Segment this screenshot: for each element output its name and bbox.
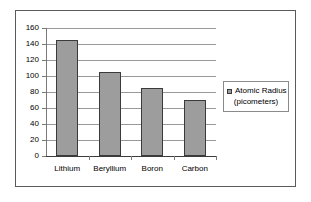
y-axis-tick-label: 60 bbox=[30, 104, 39, 112]
y-axis-tick bbox=[42, 140, 46, 141]
y-axis-tick-label: 20 bbox=[30, 136, 39, 144]
bar bbox=[99, 72, 121, 156]
y-axis-tick-label: 100 bbox=[26, 72, 39, 80]
x-axis-tick bbox=[131, 156, 132, 160]
legend-label-line2: (picometers) bbox=[227, 97, 285, 107]
y-axis-tick bbox=[42, 76, 46, 77]
x-axis-category-label: Lithium bbox=[54, 165, 80, 173]
y-axis-tick bbox=[42, 92, 46, 93]
y-axis-tick-label: 80 bbox=[30, 88, 39, 96]
x-axis-tick bbox=[89, 156, 90, 160]
y-axis-tick bbox=[42, 28, 46, 29]
plot-area: 020406080100120140160 LithiumBerylliumBo… bbox=[46, 28, 216, 156]
legend-label-line1: Atomic Radius bbox=[235, 86, 287, 96]
chart-frame: 020406080100120140160 LithiumBerylliumBo… bbox=[15, 10, 296, 187]
chart-legend: Atomic Radius (picometers) bbox=[223, 81, 289, 112]
x-axis-tick bbox=[174, 156, 175, 160]
x-axis-category-label: Beryllium bbox=[93, 165, 126, 173]
legend-swatch-icon bbox=[227, 89, 232, 94]
gridline bbox=[47, 28, 216, 29]
legend-entry: Atomic Radius bbox=[227, 86, 285, 96]
y-axis-tick bbox=[42, 124, 46, 125]
x-axis-category-label: Boron bbox=[142, 165, 163, 173]
y-axis-tick-label: 0 bbox=[35, 152, 39, 160]
x-axis-tick bbox=[216, 156, 217, 160]
y-axis-tick bbox=[42, 44, 46, 45]
y-axis-tick-label: 160 bbox=[26, 24, 39, 32]
y-axis-tick bbox=[42, 156, 46, 157]
y-axis-tick-label: 120 bbox=[26, 56, 39, 64]
bar bbox=[56, 40, 78, 156]
y-axis-tick bbox=[42, 108, 46, 109]
bar bbox=[141, 88, 163, 156]
y-axis-tick-label: 140 bbox=[26, 40, 39, 48]
y-axis-tick-label: 40 bbox=[30, 120, 39, 128]
x-axis-category-label: Carbon bbox=[182, 165, 208, 173]
bar bbox=[184, 100, 206, 156]
y-axis-tick bbox=[42, 60, 46, 61]
